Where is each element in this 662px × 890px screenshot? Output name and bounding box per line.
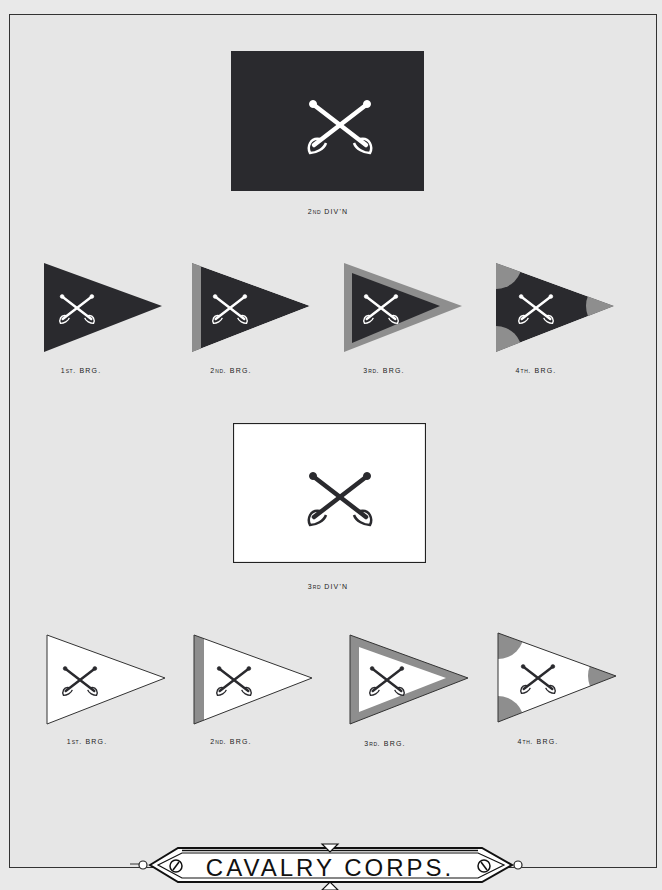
second-division-fourth-brigade-label: 4TH. BRG. [516,367,557,374]
third-division-fourth-brigade-pennant [498,633,618,723]
third-division-flag [233,423,426,563]
third-division-first-brigade-pennant [47,635,167,725]
third-division-second-brigade-pennant [194,635,314,725]
third-division-third-brigade-label: 3RD. BRG. [364,740,406,747]
third-division-fourth-brigade-label: 4TH. BRG. [518,738,559,745]
second-division-second-brigade-pennant [192,263,312,353]
second-division-third-brigade-label: 3RD. BRG. [363,367,405,374]
third-division-label: 3RD DIV'N [308,583,349,590]
title-banner: CAVALRY CORPS. [130,842,530,890]
third-division-third-brigade-pennant [350,635,470,725]
second-division-fourth-brigade-pennant [496,263,616,353]
second-division-first-brigade-pennant [44,263,164,353]
second-division-second-brigade-label: 2ND. BRG. [210,367,252,374]
third-division-second-brigade-label: 2ND. BRG. [210,738,252,745]
second-division-third-brigade-pennant [344,263,464,353]
plate-title: CAVALRY CORPS. [130,854,530,882]
second-division-flag [231,51,424,191]
second-division-label: 2ND DIV'N [308,208,349,215]
third-division-first-brigade-label: 1ST. BRG. [67,738,108,745]
second-division-first-brigade-label: 1ST. BRG. [61,367,102,374]
